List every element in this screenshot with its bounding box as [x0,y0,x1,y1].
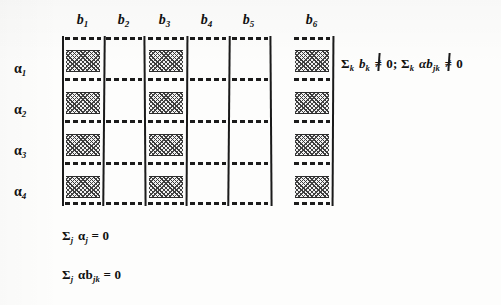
row-label-alpha4-subscript: 4 [22,191,27,201]
row-label-alpha1: α1 [14,62,58,80]
column-header-b5: b5 [228,12,269,32]
row-label-alpha4-label: α [14,184,22,199]
column-header-b3: b3 [144,12,185,32]
annotation-bottom-1-term-sub: j [85,235,88,245]
grid-dashed-rule [294,202,330,205]
row-label-alpha1-subscript: 1 [22,68,27,78]
column-header-b1-subscript: 1 [84,19,89,29]
annotation-bottom-1-sigma: Σ [62,228,71,243]
grid-dashed-rule [65,37,101,40]
grid-dashed-rule [232,78,268,81]
column-header-b5-subscript: 5 [250,19,255,29]
grid-vertical-rule-4 [227,36,230,206]
row-label-alpha3-label: α [14,143,22,158]
annotation-bottom-2-sigma: Σ [62,267,71,282]
grid-dashed-rule [294,37,330,40]
annotation-bottom-1: Σj αj = 0 [62,228,109,248]
grid-dashed-rule [65,120,101,123]
annotation-right-value2: 0 [456,56,463,71]
annotation-right-term2-sub: jk [433,63,440,73]
row-label-alpha3: α3 [14,144,58,162]
column-header-b4: b4 [186,12,227,32]
grid-dashed-rule [232,120,268,123]
effect-bar-b1-alpha2 [66,92,100,114]
grid-dashed-rule [106,120,142,123]
grid-dashed-rule [190,120,226,123]
grid-dashed-rule [65,202,101,205]
grid-vertical-rule-0 [62,36,64,206]
annotation-right-sigma1: Σ [341,56,350,71]
grid-dashed-rule [148,78,184,81]
effect-bar-b3-alpha1 [149,50,183,72]
effect-bar-b3-alpha2 [149,92,183,114]
effects-grid [62,36,334,206]
grid-dashed-rule [190,37,226,40]
column-header-b3-label: b [159,12,166,27]
grid-dashed-rule [106,162,142,165]
grid-dashed-rule [294,162,330,165]
annotation-right-relation2: ≠ [443,56,452,71]
column-header-b4-label: b [201,12,208,27]
row-label-alpha2: α2 [14,103,58,121]
column-header-b3-subscript: 3 [166,19,171,29]
annotation-bottom-2: Σj αbjk = 0 [62,267,121,287]
effect-bar-b6-alpha2 [295,92,329,114]
effect-bar-b1-alpha3 [66,134,100,156]
effect-bar-b1-alpha4 [66,176,100,198]
grid-dashed-rule [148,162,184,165]
row-label-alpha3-subscript: 3 [22,150,27,160]
grid-dashed-rule [232,162,268,165]
grid-dashed-rule [106,202,142,205]
annotation-bottom-2-term-sub: jk [93,274,100,284]
effect-bar-b3-alpha4 [149,176,183,198]
row-label-alpha2-label: α [14,102,22,117]
grid-dashed-rule [232,202,268,205]
figure-canvas: b1 b2 b3 b4 b5 b6 α1 α2 α3 α4 [0,0,501,305]
column-header-b2-label: b [118,12,125,27]
annotation-right-term1-sub: k [366,63,370,73]
grid-dashed-rule [294,78,330,81]
annotation-right-term2: αb [419,56,433,71]
annotation-bottom-2-term: αb [78,267,93,282]
grid-dashed-rule [190,162,226,165]
grid-dashed-rule [65,162,101,165]
annotation-right-sigma1-sub: k [350,63,354,73]
grid-vertical-rule-6 [332,36,335,206]
column-header-b4-subscript: 4 [208,19,213,29]
annotation-bottom-1-sigma-sub: j [71,235,74,245]
grid-vertical-rule-2 [143,36,146,206]
grid-dashed-rule [148,120,184,123]
column-header-b2-subscript: 2 [125,19,130,29]
column-header-b5-label: b [243,12,250,27]
annotation-right-sigma2: Σ [401,56,410,71]
grid-dashed-rule [65,78,101,81]
annotation-right-relation1: ≠ [374,56,383,71]
grid-dashed-rule [294,120,330,123]
effect-bar-b6-alpha3 [295,134,329,156]
effect-bar-b3-alpha3 [149,134,183,156]
effect-bar-b6-alpha1 [295,50,329,72]
column-header-b6-subscript: 6 [313,19,318,29]
grid-dashed-rule [190,78,226,81]
annotation-right: Σk bk ≠ 0; Σk αbjk ≠ 0 [341,56,463,76]
annotation-bottom-2-sigma-sub: j [71,274,74,284]
annotation-right-term1: b [359,56,366,71]
annotation-right-value1: 0 [386,56,393,71]
row-label-alpha2-subscript: 2 [22,109,27,119]
annotation-right-separator: ; [393,56,398,71]
effect-bar-b1-alpha1 [66,50,100,72]
grid-dashed-rule [190,202,226,205]
column-header-b1-label: b [77,12,84,27]
row-label-alpha1-label: α [14,61,22,76]
annotation-bottom-2-value: 0 [114,267,121,282]
grid-dashed-rule [106,78,142,81]
column-header-b6-label: b [306,12,313,27]
annotation-bottom-2-relation: = [103,267,111,282]
grid-vertical-rule-3 [186,36,189,206]
column-header-b6: b6 [291,12,332,32]
column-header-b1: b1 [62,12,103,32]
column-header-b2: b2 [103,12,144,32]
effect-bar-b6-alpha4 [295,176,329,198]
grid-vertical-rule-5 [269,36,272,206]
grid-dashed-rule [148,202,184,205]
